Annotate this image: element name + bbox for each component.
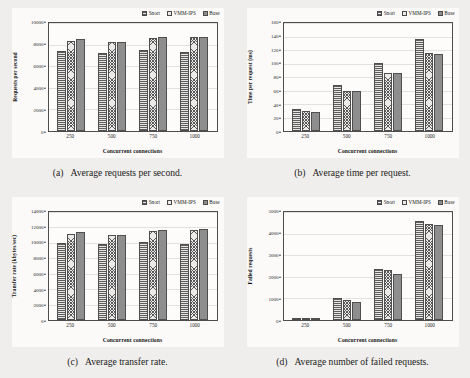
plot-wrap: [283, 211, 453, 321]
y-tick-label: 10000: [31, 240, 44, 245]
legend-label: Snort: [384, 199, 395, 205]
x-tick-label: 250: [56, 322, 84, 331]
y-tick-mark: [279, 35, 281, 36]
x-tick-label: 1000: [181, 322, 209, 331]
y-tick-mark: [44, 44, 46, 45]
legend-label: VMM-IPS: [408, 10, 430, 16]
chart-card-b: SnortVMM-IPSBaseTime per request (ms)020…: [247, 8, 459, 158]
y-tick-mark: [44, 88, 46, 89]
bar-group: [180, 23, 207, 131]
legend-swatch-vmm-ips-icon: [402, 11, 407, 16]
bar-group: [180, 212, 207, 320]
y-tick-mark: [279, 77, 281, 78]
legend-swatch-snort-icon: [142, 200, 147, 205]
caption-label: (c): [67, 356, 78, 367]
y-tick-label: 2000: [269, 275, 279, 280]
chart-panel-d: SnortVMM-IPSBaseFailed requests010002000…: [235, 189, 470, 378]
y-tick-mark: [279, 90, 281, 91]
bar-vmm-ips-500: [108, 235, 117, 320]
bar-vmm-ips-750: [384, 270, 393, 320]
legend-item-base: Base: [438, 10, 455, 16]
bar-base-250: [76, 232, 85, 320]
bar-vmm-ips-250: [67, 234, 76, 320]
legend-label: Snort: [149, 10, 160, 16]
x-tick-label: 1000: [416, 133, 444, 142]
bar-snort-750: [139, 50, 148, 131]
y-tick-mark: [279, 321, 281, 322]
x-tick-label: 500: [98, 322, 126, 331]
legend-swatch-snort-icon: [377, 200, 382, 205]
bar-group: [139, 23, 166, 131]
bar-group: [98, 23, 125, 131]
bar-base-500: [352, 91, 361, 132]
legend-swatch-snort-icon: [377, 11, 382, 16]
chart-legend: SnortVMM-IPSBase: [247, 199, 459, 205]
bar-vmm-ips-1000: [190, 230, 199, 320]
chart-panel-b: SnortVMM-IPSBaseTime per request (ms)020…: [235, 0, 470, 189]
legend-label: Snort: [149, 199, 160, 205]
x-tick-label: 750: [139, 133, 167, 142]
bar-base-250: [311, 112, 320, 131]
y-tick-label: 6000: [34, 271, 44, 276]
bar-vmm-ips-1000: [425, 224, 434, 320]
chart-card-c: SnortVMM-IPSBaseTransfer rate (kbytes/se…: [12, 197, 224, 347]
bar-vmm-ips-250: [67, 41, 76, 131]
x-tick-label: 1000: [416, 322, 444, 331]
chart-legend: SnortVMM-IPSBase: [12, 10, 224, 16]
caption-text: Average transfer rate.: [85, 356, 168, 367]
legend-swatch-vmm-ips-icon: [167, 11, 172, 16]
x-tick-label: 500: [333, 322, 361, 331]
legend-label: Snort: [384, 10, 395, 16]
legend-label: Base: [444, 10, 454, 16]
y-tick-mark: [279, 63, 281, 64]
legend-item-vmm-ips: VMM-IPS: [167, 10, 196, 16]
legend-swatch-base-icon: [438, 11, 443, 16]
y-tick-mark: [44, 305, 46, 306]
y-tick-mark: [44, 110, 46, 111]
bar-snort-750: [374, 63, 383, 131]
y-tick-mark: [279, 118, 281, 119]
bar-snort-250: [57, 243, 66, 320]
legend-swatch-snort-icon: [142, 11, 147, 16]
bar-base-500: [117, 42, 126, 131]
y-tick-label: 14000: [31, 209, 44, 214]
bar-group: [57, 212, 84, 320]
caption-label: (b): [294, 167, 305, 178]
bar-snort-750: [374, 269, 383, 320]
y-tick-label: 2000: [34, 108, 44, 113]
bar-base-1000: [199, 37, 208, 132]
chart-legend: SnortVMM-IPSBase: [12, 199, 224, 205]
legend-label: Base: [209, 10, 219, 16]
bar-base-1000: [434, 225, 443, 320]
bar-groups: [284, 23, 452, 131]
x-tick-label: 500: [333, 133, 361, 142]
legend-item-snort: Snort: [377, 10, 395, 16]
bar-base-1000: [434, 54, 443, 131]
legend-item-snort: Snort: [142, 10, 160, 16]
y-tick-mark: [44, 226, 46, 227]
figure-caption-c: (c) Average transfer rate.: [67, 356, 167, 367]
bar-vmm-ips-750: [149, 231, 158, 320]
bar-vmm-ips-750: [384, 73, 393, 131]
x-axis-ticks: 2505007501000: [283, 133, 453, 142]
bar-groups: [284, 212, 452, 320]
y-tick-label: 4000: [34, 86, 44, 91]
y-tick-mark: [44, 274, 46, 275]
x-axis-title: Concurrent connections: [283, 148, 453, 154]
x-axis-ticks: 2505007501000: [283, 322, 453, 331]
plot-area: [48, 211, 218, 321]
figure-caption-a: (a) Average requests per second.: [53, 167, 182, 178]
gridline: [49, 320, 217, 321]
chart-legend: SnortVMM-IPSBase: [247, 10, 459, 16]
y-tick-mark: [279, 132, 281, 133]
bar-vmm-ips-250: [302, 111, 311, 131]
bar-vmm-ips-500: [343, 300, 352, 320]
gridline: [284, 320, 452, 321]
bar-snort-500: [333, 85, 342, 131]
bar-group: [98, 212, 125, 320]
bar-group: [415, 23, 442, 131]
bar-groups: [49, 23, 217, 131]
bar-base-250: [311, 318, 320, 320]
bar-group: [292, 212, 319, 320]
legend-swatch-base-icon: [203, 200, 208, 205]
